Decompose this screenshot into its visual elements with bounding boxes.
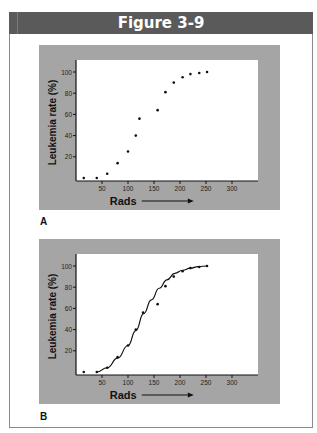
data-point	[198, 266, 201, 269]
data-point	[83, 177, 86, 180]
x-tick-label: 100	[123, 379, 134, 386]
x-axis-label: Rads	[110, 195, 137, 207]
x-tick-label: 300	[227, 185, 238, 192]
x-tick-label: 100	[123, 185, 134, 192]
data-point	[96, 371, 99, 374]
figure-title: Figure 3-9	[9, 12, 313, 34]
scatter-chart-b: 2040608010050100150200250300Leukemia rat…	[39, 239, 280, 404]
x-tick-label: 50	[98, 379, 106, 386]
data-point	[172, 81, 175, 84]
x-axis-label: Rads	[110, 389, 137, 401]
data-point	[172, 275, 175, 278]
data-point	[106, 172, 109, 175]
y-tick-label: 20	[65, 347, 73, 354]
data-point	[127, 344, 130, 347]
y-tick-label: 100	[61, 69, 72, 76]
x-tick-label: 200	[175, 379, 186, 386]
scatter-chart-a: 2040608010050100150200250300Leukemia rat…	[39, 45, 280, 210]
data-point	[164, 285, 167, 288]
data-point	[206, 265, 209, 268]
panel-label-a: A	[40, 216, 47, 227]
data-point	[156, 303, 159, 306]
y-tick-label: 60	[65, 305, 73, 312]
data-point	[189, 73, 192, 76]
y-axis-label: Leukemia rate (%)	[47, 274, 58, 360]
x-tick-label: 50	[98, 185, 106, 192]
x-tick-label: 250	[201, 379, 212, 386]
data-point	[164, 91, 167, 94]
y-tick-label: 80	[65, 90, 73, 97]
data-point	[206, 71, 209, 74]
x-tick-label: 150	[149, 379, 160, 386]
y-tick-label: 40	[65, 326, 73, 333]
data-point	[189, 267, 192, 270]
x-tick-label: 250	[201, 185, 212, 192]
data-point	[96, 177, 99, 180]
x-tick-label: 200	[175, 185, 186, 192]
y-axis-label: Leukemia rate (%)	[47, 80, 58, 166]
x-tick-label: 150	[149, 185, 160, 192]
data-point	[135, 328, 138, 331]
data-point	[83, 371, 86, 374]
data-point	[181, 76, 184, 79]
chart-panel-b: 2040608010050100150200250300Leukemia rat…	[39, 239, 280, 404]
data-point	[181, 270, 184, 273]
plot-area	[76, 254, 258, 375]
data-point	[116, 162, 119, 165]
header-rule	[17, 12, 18, 34]
panel-label-b: B	[40, 411, 47, 422]
chart-panel-a: 2040608010050100150200250300Leukemia rat…	[39, 45, 280, 210]
data-point	[135, 134, 138, 137]
y-tick-label: 80	[65, 284, 73, 291]
data-point	[106, 366, 109, 369]
plot-area	[76, 60, 258, 181]
data-point	[156, 109, 159, 112]
y-tick-label: 20	[65, 153, 73, 160]
data-point	[116, 356, 119, 359]
y-tick-label: 40	[65, 132, 73, 139]
data-point	[198, 72, 201, 75]
y-tick-label: 60	[65, 111, 73, 118]
data-point	[142, 311, 145, 314]
data-point	[127, 150, 130, 153]
y-tick-label: 100	[61, 263, 72, 270]
data-point	[138, 117, 141, 120]
x-tick-label: 300	[227, 379, 238, 386]
